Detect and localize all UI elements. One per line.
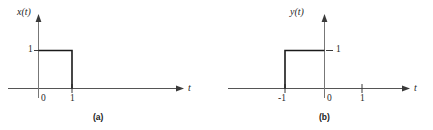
plot-panel-a: x(t) t 1 0 1 (a) — [0, 0, 217, 130]
x-axis-label-a: t — [188, 83, 191, 93]
x-tick-label-1-a: 1 — [70, 94, 75, 104]
plot-a-graphics — [0, 0, 217, 130]
x-tick-label-minus1-b: -1 — [278, 94, 286, 104]
y-axis-arrowhead-b — [322, 14, 328, 22]
panel-caption-a: (a) — [93, 112, 103, 122]
x-axis-label-b: t — [414, 83, 417, 93]
x-tick-label-0-a: 0 — [41, 94, 46, 104]
signal-curve-b — [285, 51, 325, 89]
plot-panel-b: y(t) t 1 -1 0 1 (b) — [216, 0, 433, 130]
y-axis-label-a: x(t) — [17, 7, 31, 17]
figure-container: x(t) t 1 0 1 (a) y(t) t 1 -1 — [0, 0, 433, 130]
y-axis-label-b: y(t) — [290, 7, 304, 17]
panel-caption-b: (b) — [319, 112, 330, 122]
x-axis-arrowhead-a — [176, 86, 184, 92]
y-level-label-b: 1 — [336, 45, 341, 55]
x-tick-label-1-b: 1 — [360, 94, 365, 104]
x-tick-label-0-b: 0 — [327, 94, 332, 104]
y-axis-arrowhead-a — [36, 14, 42, 22]
signal-curve-a — [39, 51, 73, 89]
x-axis-arrowhead-b — [402, 86, 410, 92]
plot-b-graphics — [216, 0, 433, 130]
y-level-label-a: 1 — [28, 45, 33, 55]
